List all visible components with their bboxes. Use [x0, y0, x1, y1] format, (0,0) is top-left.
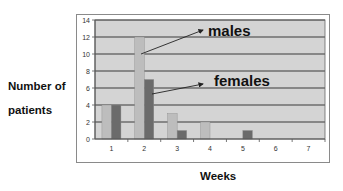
y-tick-label: 8 [86, 68, 90, 75]
bar-females [177, 131, 187, 140]
x-tick-label: 3 [175, 145, 179, 152]
bar-females [243, 131, 253, 140]
bar-females [144, 80, 154, 140]
x-tick-label: 5 [241, 145, 245, 152]
y-tick-label: 12 [82, 34, 90, 41]
x-tick-label: 2 [142, 145, 146, 152]
bar-males [135, 37, 145, 139]
y-tick-label: 2 [86, 119, 90, 126]
y-tick-label: 14 [82, 17, 90, 24]
x-tick-label: 7 [307, 145, 311, 152]
bar-males [102, 105, 112, 139]
bar-males [168, 114, 178, 140]
bar-chart: 024681012141234567malesfemales [0, 0, 343, 191]
y-tick-label: 4 [86, 102, 90, 109]
bar-females [111, 105, 121, 139]
annotation-females: females [214, 72, 270, 89]
x-tick-label: 6 [274, 145, 278, 152]
x-tick-label: 1 [109, 145, 113, 152]
y-tick-label: 6 [86, 85, 90, 92]
annotation-males: males [208, 22, 251, 39]
y-tick-label: 10 [82, 51, 90, 58]
x-tick-label: 4 [208, 145, 212, 152]
bar-males [201, 122, 211, 139]
y-tick-label: 0 [86, 136, 90, 143]
